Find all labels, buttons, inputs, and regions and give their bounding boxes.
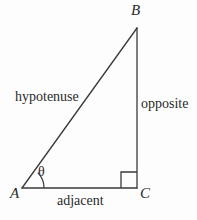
angle-label-theta: θ — [38, 165, 45, 179]
trigonometry-figure: B A C hypotenuse opposite adjacent θ — [0, 0, 197, 220]
side-label-opposite: opposite — [141, 97, 188, 111]
vertex-label-b: B — [131, 3, 140, 18]
vertex-label-c: C — [140, 186, 150, 201]
side-label-hypotenuse: hypotenuse — [15, 90, 79, 104]
right-angle-marker — [121, 172, 137, 188]
vertex-label-a: A — [10, 186, 19, 201]
side-label-adjacent: adjacent — [57, 194, 104, 208]
